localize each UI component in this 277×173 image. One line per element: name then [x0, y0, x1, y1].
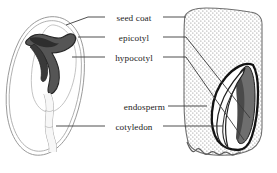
label-cotyledon: cotyledon	[115, 122, 152, 132]
label-endosperm: endosperm	[124, 102, 165, 112]
label-seed-coat: seed coat	[117, 13, 152, 23]
right-seed-view	[184, 8, 262, 155]
leader-seed-coat-left	[66, 17, 105, 25]
label-epicotyl: epicotyl	[119, 33, 150, 43]
seed-anatomy-figure: seed coat epicotyl hypocotyl endosperm c…	[0, 0, 277, 173]
left-seed-view	[6, 17, 84, 156]
label-hypocotyl: hypocotyl	[115, 53, 153, 63]
diagram-canvas: seed coat epicotyl hypocotyl endosperm c…	[0, 0, 277, 173]
